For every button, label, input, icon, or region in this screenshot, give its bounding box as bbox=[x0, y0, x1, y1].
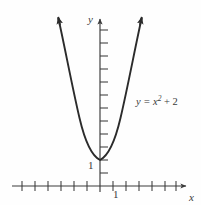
curve-equation-tail: + 2 bbox=[161, 96, 177, 107]
parabola-right-arrowhead bbox=[140, 17, 142, 25]
y-axis-ticks-positive bbox=[100, 30, 108, 173]
y-axis-tick-label-1: 1 bbox=[88, 160, 94, 171]
x-axis-label: x bbox=[189, 192, 194, 203]
curve-equation-label: y = x2 + 2 bbox=[136, 97, 178, 108]
parabola-left-arrowhead bbox=[58, 17, 60, 25]
curve-equation-base: y = x bbox=[136, 96, 158, 107]
y-axis-label: y bbox=[88, 14, 93, 25]
x-axis-tick-label-1: 1 bbox=[113, 189, 119, 200]
graph-figure: y x 1 1 y = x2 + 2 bbox=[0, 0, 201, 205]
